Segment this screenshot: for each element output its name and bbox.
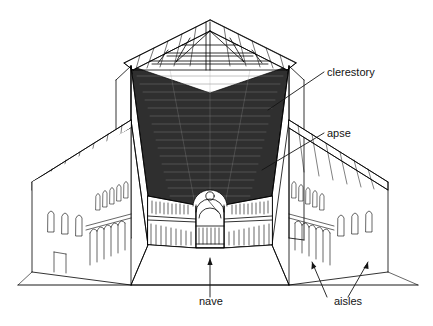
label-apse: apse [327,127,351,139]
diagram-canvas: clerestory apse nave aisles [0,0,433,326]
nave-wall-right-inner [224,196,272,248]
label-clerestory: clerestory [327,66,375,78]
nave-wall-left-inner [148,196,196,248]
label-aisles: aisles [334,295,363,307]
label-nave: nave [199,295,223,307]
basilica-diagram: clerestory apse nave aisles [0,0,433,326]
apse [193,190,227,248]
